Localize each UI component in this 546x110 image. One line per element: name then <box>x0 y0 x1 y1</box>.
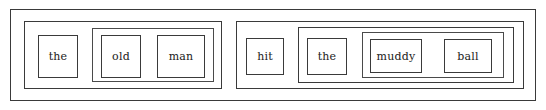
word-label-man: man <box>169 51 194 62</box>
word-label-hit: hit <box>257 51 273 62</box>
word-label-muddy: muddy <box>377 51 416 62</box>
word-box-man: man <box>157 35 205 78</box>
word-box-hit: hit <box>246 38 284 75</box>
diagram-canvas: the old man hit the muddy ball <box>0 0 546 110</box>
word-box-muddy: muddy <box>370 39 422 73</box>
word-box-ball: ball <box>444 39 492 73</box>
word-label-the-object: the <box>318 51 337 62</box>
word-label-the-subject: the <box>49 51 68 62</box>
word-label-old: old <box>112 51 130 62</box>
word-box-the-object: the <box>307 38 347 75</box>
word-box-old: old <box>101 35 141 78</box>
word-label-ball: ball <box>457 51 478 62</box>
word-box-the-subject: the <box>38 35 78 78</box>
